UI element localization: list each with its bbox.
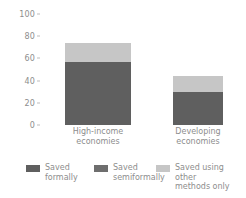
legend-label: Saved formally bbox=[45, 163, 78, 182]
legend: Saved formally Saved semiformally Saved … bbox=[26, 163, 240, 192]
bar-segment-other-methods bbox=[173, 76, 223, 92]
legend-swatch-icon bbox=[26, 165, 40, 172]
y-tick-mark bbox=[37, 36, 40, 37]
stacked-bar-chart: 100 80 60 40 20 0 bbox=[0, 0, 246, 198]
y-tick-mark bbox=[37, 102, 40, 103]
y-tick-label: 0 bbox=[30, 121, 35, 130]
y-tick-mark bbox=[37, 125, 40, 126]
legend-label: Saved using other methods only bbox=[175, 163, 240, 192]
bar-segment-other-methods bbox=[65, 43, 131, 62]
y-tick-label: 80 bbox=[24, 32, 35, 41]
y-tick-mark bbox=[37, 58, 40, 59]
bar-developing[interactable] bbox=[173, 76, 223, 125]
bar-high-income[interactable] bbox=[65, 43, 131, 125]
y-tick-label: 40 bbox=[24, 76, 35, 85]
y-tick-mark bbox=[37, 80, 40, 81]
y-tick-mark bbox=[37, 14, 40, 15]
y-tick-label: 60 bbox=[24, 54, 35, 63]
legend-item-saved-semiformally[interactable]: Saved semiformally bbox=[94, 163, 156, 192]
bar-segment-formal bbox=[65, 62, 131, 125]
x-tick-label-developing: Developing economies bbox=[153, 127, 243, 147]
y-tick-label: 100 bbox=[19, 10, 35, 19]
x-tick-label-high-income: High-income economies bbox=[53, 127, 143, 147]
legend-item-saved-formally[interactable]: Saved formally bbox=[26, 163, 94, 192]
legend-item-saved-other-methods[interactable]: Saved using other methods only bbox=[156, 163, 240, 192]
plot-area: 100 80 60 40 20 0 bbox=[40, 14, 236, 125]
legend-swatch-icon bbox=[156, 165, 170, 172]
bar-segment-formal bbox=[173, 92, 223, 125]
y-tick-label: 20 bbox=[24, 98, 35, 107]
legend-swatch-icon bbox=[94, 165, 108, 172]
